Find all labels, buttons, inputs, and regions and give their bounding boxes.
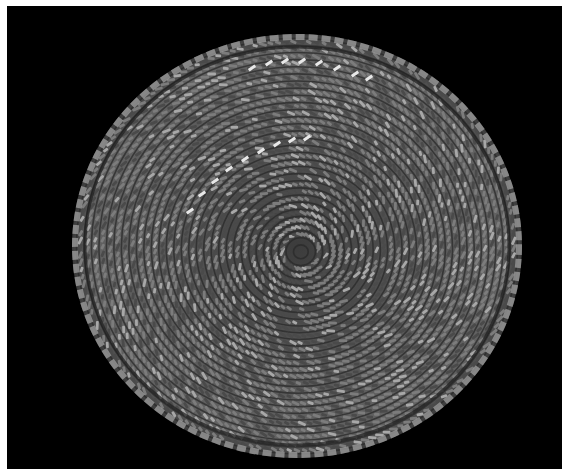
stitch xyxy=(279,208,284,211)
stitch xyxy=(231,126,239,129)
stitch xyxy=(266,182,271,185)
stitch xyxy=(377,218,380,225)
stitch xyxy=(451,189,454,196)
stitch xyxy=(368,216,371,223)
stitch xyxy=(229,119,235,122)
stitch xyxy=(175,301,178,308)
stitch xyxy=(372,399,378,402)
stitch xyxy=(256,178,264,181)
stitch xyxy=(356,354,362,357)
stitch xyxy=(404,208,407,214)
stitch xyxy=(417,185,420,194)
stitch xyxy=(333,341,341,344)
stitch xyxy=(364,226,367,232)
stitch xyxy=(336,348,342,351)
stitch xyxy=(387,406,394,409)
stitch xyxy=(106,342,109,349)
stitch xyxy=(346,373,353,376)
stitch xyxy=(454,161,457,170)
stitch xyxy=(217,92,226,95)
stitch xyxy=(358,390,364,393)
stitch xyxy=(248,127,253,130)
stitch xyxy=(385,399,393,402)
stitch xyxy=(371,206,374,213)
stitch xyxy=(118,334,121,340)
stitch xyxy=(238,138,245,141)
stitch xyxy=(408,199,411,205)
stitch xyxy=(234,108,242,111)
stitch xyxy=(360,367,366,370)
stitch xyxy=(340,324,345,327)
stitch xyxy=(227,273,230,282)
stitch xyxy=(137,305,140,313)
stitch xyxy=(255,267,258,272)
stitch xyxy=(461,174,464,183)
stitch xyxy=(413,192,416,199)
stitch xyxy=(219,274,222,281)
stitch xyxy=(378,380,384,383)
stitch xyxy=(267,189,272,192)
stitch xyxy=(402,201,405,210)
stitch xyxy=(125,315,128,323)
stitch xyxy=(464,182,467,187)
stitch xyxy=(341,345,349,348)
stitch xyxy=(330,335,338,338)
stitch xyxy=(366,416,373,419)
stitch xyxy=(153,306,156,312)
stitch xyxy=(215,118,221,121)
stitch xyxy=(405,192,408,200)
stitch xyxy=(385,202,388,210)
stitch xyxy=(203,291,206,300)
stitch xyxy=(374,413,380,416)
stitch xyxy=(255,155,261,158)
stitch xyxy=(477,176,480,184)
stitch xyxy=(206,298,209,304)
stitch xyxy=(225,129,231,132)
stitch xyxy=(150,299,153,307)
stitch xyxy=(108,314,111,320)
stitch xyxy=(474,152,477,160)
stitch xyxy=(354,220,357,226)
stitch xyxy=(220,114,229,117)
stitch xyxy=(416,200,419,206)
stitch xyxy=(343,330,352,333)
stitch xyxy=(158,301,161,307)
stitch xyxy=(337,333,344,336)
stitch xyxy=(352,385,357,388)
stitch xyxy=(235,147,243,150)
stitch xyxy=(374,390,380,393)
stitch xyxy=(379,403,386,406)
stitch xyxy=(240,130,247,133)
stitch xyxy=(232,86,238,89)
stitch xyxy=(475,170,478,178)
stitch xyxy=(208,285,211,294)
stitch xyxy=(227,103,235,106)
stitch xyxy=(471,181,474,189)
stitch xyxy=(477,159,480,165)
stitch xyxy=(191,283,194,289)
stitch xyxy=(361,396,367,399)
stitch xyxy=(446,175,449,184)
stitch xyxy=(180,293,183,302)
stitch xyxy=(329,314,337,317)
stitch xyxy=(128,321,131,329)
stitch xyxy=(423,198,426,205)
stitch xyxy=(367,393,375,396)
stitch xyxy=(243,113,249,116)
stitch xyxy=(365,387,372,390)
stitch xyxy=(339,339,348,342)
stitch xyxy=(223,67,229,70)
stitch xyxy=(273,187,279,190)
stitch xyxy=(348,342,355,345)
stitch xyxy=(122,308,125,317)
stitch xyxy=(483,172,486,180)
stitch xyxy=(177,288,180,295)
stitch xyxy=(252,172,260,175)
stitch xyxy=(187,291,190,299)
stitch xyxy=(323,309,330,312)
stitch xyxy=(243,275,246,281)
stitch xyxy=(322,302,330,305)
stitch xyxy=(161,307,164,313)
stitch xyxy=(394,202,397,210)
stitch xyxy=(222,279,225,288)
